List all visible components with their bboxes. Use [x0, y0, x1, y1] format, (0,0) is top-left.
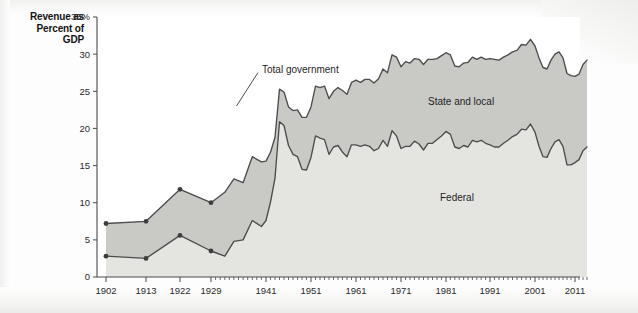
x-tick-label-1991: 1991	[479, 285, 500, 296]
total-government-label: Total government	[262, 64, 339, 75]
data-point-total-government-1922	[178, 187, 183, 192]
y-tick-label-15: 15	[79, 160, 90, 171]
y-tick-label-0: 0	[85, 271, 90, 282]
y-tick-label-5: 5	[85, 234, 90, 245]
data-point-total-government-1902	[104, 221, 109, 226]
x-tick-label-1951: 1951	[300, 285, 321, 296]
x-tick-label-1941: 1941	[255, 285, 276, 296]
x-axis-tick-labels: 1902191319221929194119511961197119811991…	[95, 285, 585, 296]
data-point-federal-1913	[144, 256, 149, 261]
data-point-total-government-1913	[144, 219, 149, 224]
x-tick-label-1971: 1971	[390, 285, 411, 296]
x-tick-label-1961: 1961	[345, 285, 366, 296]
x-axis-ticks	[106, 277, 587, 282]
y-tick-label-30: 30	[79, 49, 90, 60]
y-axis-ticks	[93, 17, 97, 277]
x-tick-label-1929: 1929	[200, 285, 221, 296]
state-and-local-label: State and local	[428, 96, 494, 107]
x-tick-label-1902: 1902	[95, 285, 116, 296]
federal-label: Federal	[440, 192, 474, 203]
y-axis-tick-labels: 05101520253035%	[71, 11, 91, 282]
y-tick-label-10: 10	[79, 197, 90, 208]
y-tick-label-35: 35%	[71, 11, 91, 22]
chart-page: Revenue as Percent of GDP 05101520253035…	[0, 0, 638, 313]
x-tick-label-2011: 2011	[565, 285, 585, 296]
data-point-total-government-1929	[209, 200, 214, 205]
x-tick-label-1913: 1913	[135, 285, 156, 296]
y-tick-label-20: 20	[79, 123, 90, 134]
x-tick-label-1981: 1981	[435, 285, 456, 296]
data-point-federal-1922	[178, 233, 183, 238]
x-tick-label-1922: 1922	[169, 285, 190, 296]
data-point-federal-1902	[104, 254, 109, 259]
y-tick-label-25: 25	[79, 86, 90, 97]
area-chart: 05101520253035% 190219131922192919411951…	[0, 0, 638, 313]
data-point-federal-1929	[209, 249, 214, 254]
x-tick-label-2001: 2001	[524, 285, 545, 296]
